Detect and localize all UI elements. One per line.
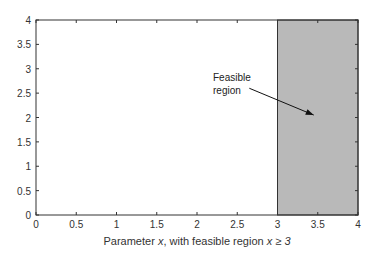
y-tick-label: 2 (25, 113, 31, 124)
y-tick-label: 0 (25, 210, 31, 221)
y-tick-label: 3 (25, 64, 31, 75)
x-tick-label: 0.5 (69, 219, 83, 230)
x-tick-label: 2.5 (230, 219, 244, 230)
x-tick-label: 0 (33, 219, 39, 230)
y-tick-label: 0.5 (17, 186, 31, 197)
y-tick-label: 2.5 (17, 88, 31, 99)
x-tick-label: 2 (194, 219, 200, 230)
feasible-region-chart: 00.511.522.533.54 00.511.522.533.54 Feas… (0, 0, 376, 258)
x-tick-label: 3.5 (311, 219, 325, 230)
y-tick-label: 4 (25, 15, 31, 26)
x-tick-label: 1.5 (150, 219, 164, 230)
annotation-text-line1: Feasible (213, 72, 251, 83)
annotation-text-line2: region (213, 85, 241, 96)
feasible-region-shading (278, 20, 359, 215)
x-tick-label: 3 (275, 219, 281, 230)
shaded-rect (278, 20, 359, 215)
y-tick-label: 1 (25, 161, 31, 172)
y-tick-label: 1.5 (17, 137, 31, 148)
x-tick-label: 1 (114, 219, 120, 230)
x-tick-label: 4 (355, 219, 361, 230)
x-axis-label: Parameter x, with feasible region x ≥ 3 (103, 235, 291, 247)
y-tick-label: 3.5 (17, 39, 31, 50)
